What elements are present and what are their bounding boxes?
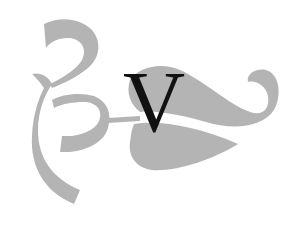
top-hook — [44, 19, 98, 88]
drop-cap-letter: V — [121, 62, 187, 142]
inner-loop — [52, 94, 109, 152]
